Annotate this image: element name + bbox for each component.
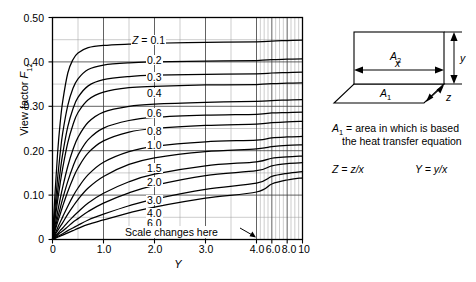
- definition-y-symbol: Y: [415, 163, 422, 175]
- curve-group: [53, 40, 303, 239]
- scale-change-note: Scale changes here: [124, 226, 219, 238]
- curve-label-z-0.2: 0.2: [146, 55, 163, 65]
- y-tick-label: 0.10: [0, 190, 44, 200]
- curve-z-0.3: [53, 72, 303, 239]
- view-factor-figure: View factor F12 Y 0.50 0.40 0.30 0.20 0.…: [0, 0, 476, 282]
- area-note-line2: the heat transfer equation: [342, 135, 462, 148]
- definition-z: Z = z/x: [332, 163, 364, 176]
- area-note-text1: = area in which is based: [343, 122, 459, 134]
- scale-change-arrow: [240, 228, 256, 238]
- curve-z-0.1: [53, 40, 303, 239]
- curve-label-z-1.0: 1.0: [146, 140, 163, 150]
- y-tick-label: 0.50: [0, 13, 44, 23]
- dimension-z-label: z: [446, 91, 451, 104]
- y-tick-label: 0.30: [0, 101, 44, 111]
- curve-label-z-1.5: 1.5: [146, 163, 163, 173]
- definition-y-expression: = y/x: [422, 163, 447, 175]
- curve-label-z-0.8: 0.8: [146, 126, 163, 136]
- area-note-symbol: A: [332, 122, 339, 134]
- x-tick-label: 2.0: [135, 244, 175, 254]
- curve-label-z-2.0: 2.0: [146, 177, 163, 187]
- x-tick-label: 10: [284, 244, 324, 254]
- dimension-y-label: y: [460, 52, 465, 65]
- x-tick-label: 0: [33, 244, 73, 254]
- definition-z-expression: = z/x: [338, 163, 363, 175]
- curve-label-value: = 0.1: [138, 34, 165, 46]
- minor-gridlines: [53, 18, 303, 240]
- y-tick-label: 0.40: [0, 57, 44, 67]
- chart-panel: View factor F12 Y 0.50 0.40 0.30 0.20 0.…: [0, 0, 320, 282]
- y-axis-label-symbol: F: [18, 72, 30, 79]
- curve-label-z-0.4: 0.4: [146, 88, 163, 98]
- curve-label-z-0.1: Z = 0.1: [131, 35, 166, 45]
- y-tick-label: 0.20: [0, 146, 44, 156]
- surface-a1-symbol: A: [380, 87, 387, 99]
- surface-a1-subscript: 1: [387, 93, 391, 102]
- curve-label-z-0.3: 0.3: [146, 72, 163, 82]
- curve-label-z-3.0: 3.0: [146, 195, 163, 205]
- x-tick-label: 1.0: [84, 244, 124, 254]
- definition-y: Y = y/x: [415, 163, 447, 176]
- geometry-diagram-panel: A2 A1 x y z A1 = area in which is based …: [320, 0, 476, 282]
- x-axis-label: Y: [52, 258, 304, 270]
- x-tick-label: 3.0: [186, 244, 226, 254]
- curve-z-0.8: [53, 112, 303, 239]
- dimension-x-label: x: [395, 57, 400, 70]
- y-tick-label: 0: [0, 234, 44, 244]
- curve-label-z-0.6: 0.6: [146, 108, 163, 118]
- surface-a1-label: A1: [380, 87, 391, 104]
